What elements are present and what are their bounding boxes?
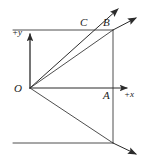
label-point-a: A [103,90,110,101]
ray-through-point-b-extension [113,18,136,30]
label-point-b: B [103,17,110,28]
segment-o-to-b [30,30,113,88]
geometry-figure: C B A O +y +x [0,0,146,162]
segment-o-to-d [30,88,113,143]
label-origin: O [14,83,22,94]
label-axis-x: +x [124,90,134,99]
label-point-c: C [80,17,87,28]
diagram-canvas [0,0,146,162]
ray-down-right-extension [113,143,136,154]
label-axis-y: +y [12,28,22,37]
